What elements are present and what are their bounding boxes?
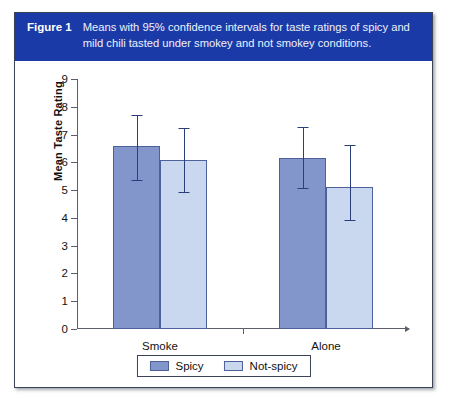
y-axis-tick [71, 273, 77, 274]
figure-container: Figure 1 Means with 95% confidence inter… [14, 12, 433, 388]
error-bar [303, 127, 304, 188]
y-axis-tick-label: 3 [62, 240, 68, 252]
y-axis-tick [71, 162, 77, 163]
y-axis-tick [71, 135, 77, 136]
y-axis-line [77, 79, 78, 329]
legend-swatch-not-spicy-icon [224, 361, 243, 371]
error-bar-cap [297, 127, 308, 128]
error-bar-cap [178, 128, 189, 129]
y-axis-tick-label: 1 [62, 295, 68, 307]
x-axis-tick [243, 329, 244, 334]
y-axis-tick-label: 2 [62, 267, 68, 279]
figure-number-label: Figure 1 [27, 19, 72, 36]
error-bar-cap [297, 188, 308, 189]
y-axis-tick [71, 301, 77, 302]
legend-item-spicy: Spicy [149, 360, 203, 372]
y-axis-tick-label: 8 [62, 101, 68, 113]
error-bar-cap [344, 145, 355, 146]
y-axis-tick-label: 5 [62, 184, 68, 196]
error-bar [137, 115, 138, 180]
y-axis-tick [71, 218, 77, 219]
error-bar-cap [131, 115, 142, 116]
error-bar-cap [178, 192, 189, 193]
y-axis-tick-label: 6 [62, 156, 68, 168]
y-axis-tick [71, 79, 77, 80]
y-axis-tick-label: 9 [62, 73, 68, 85]
y-axis-tick [71, 190, 77, 191]
chart-plot-area: 0123456789SmokeAlone [77, 79, 409, 329]
error-bar [350, 145, 351, 220]
legend-item-not-spicy: Not-spicy [224, 360, 298, 372]
y-axis-tick-label: 4 [62, 212, 68, 224]
legend-label-spicy: Spicy [175, 360, 203, 372]
legend-label-not-spicy: Not-spicy [250, 360, 298, 372]
legend-swatch-spicy-icon [149, 361, 168, 371]
x-axis-arrow-icon [405, 326, 410, 332]
x-axis-group-label: Alone [311, 340, 340, 352]
y-axis-tick [71, 246, 77, 247]
figure-caption-bar: Figure 1 Means with 95% confidence inter… [15, 13, 432, 61]
y-axis-tick [71, 329, 77, 330]
plot-card: Mean Taste Rating 0123456789SmokeAlone S… [23, 65, 424, 381]
figure-caption-text: Means with 95% confidence intervals for … [83, 19, 422, 51]
y-axis-tick-label: 7 [62, 129, 68, 141]
x-axis-group-label: Smoke [142, 340, 178, 352]
chart-legend: Spicy Not-spicy [136, 355, 310, 377]
plot-panel: Mean Taste Rating 0123456789SmokeAlone S… [15, 61, 432, 387]
error-bar-cap [131, 180, 142, 181]
error-bar [184, 128, 185, 192]
error-bar-cap [344, 220, 355, 221]
y-axis-tick [71, 107, 77, 108]
y-axis-tick-label: 0 [62, 323, 68, 335]
